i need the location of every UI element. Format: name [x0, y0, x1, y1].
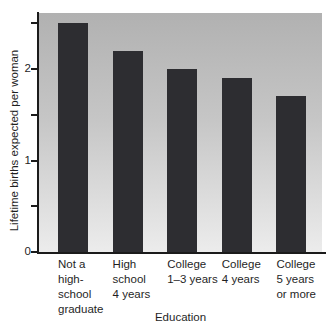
- x-axis-line: [37, 252, 326, 254]
- bar-3: [167, 69, 197, 252]
- y-tick-1: [31, 160, 38, 162]
- bar-5: [276, 96, 306, 252]
- x-category-label-2: High school 4 years: [113, 257, 151, 302]
- bar-1: [58, 23, 88, 252]
- y-tick-0: [31, 251, 38, 253]
- x-category-label-4: College 4 years: [222, 257, 261, 287]
- bar-4: [222, 78, 252, 252]
- y-axis-line: [37, 12, 39, 254]
- plot-area: [39, 13, 322, 252]
- y-tick-label-0: 0: [8, 244, 31, 259]
- y-tick-0.5: [31, 205, 38, 207]
- y-tick-label-2: 2: [8, 61, 31, 76]
- bar-chart-figure: Lifetime births expected per woman Educa…: [0, 0, 335, 329]
- x-category-label-3: College 1–3 years: [167, 257, 218, 287]
- x-category-label-1: Not a high- school graduate: [58, 257, 103, 317]
- y-tick-1.5: [31, 114, 38, 116]
- x-category-label-5: College 5 years or more: [276, 257, 316, 302]
- y-tick-label-1: 1: [8, 153, 31, 168]
- y-tick-2.5: [31, 22, 38, 24]
- bar-2: [113, 51, 143, 252]
- y-tick-2: [31, 68, 38, 70]
